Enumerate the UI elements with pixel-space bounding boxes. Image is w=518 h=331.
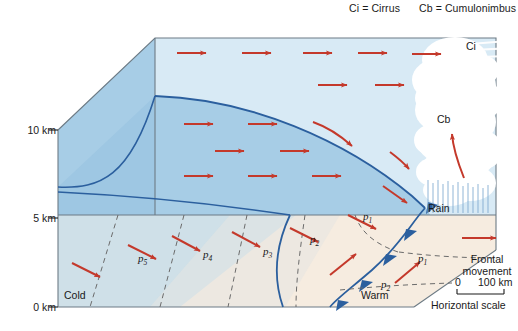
isobar-label-p1-upper: p1 — [363, 211, 372, 225]
rain-label: Rain — [428, 203, 450, 214]
cirrus-abbreviation: Ci = Cirrus — [349, 2, 400, 14]
isobar-subscript: 5 — [144, 258, 148, 267]
scale-start-label: 0 — [455, 277, 461, 288]
horizontal-scale-caption: Horizontal scale — [431, 300, 506, 311]
cirrus-label: Ci — [466, 41, 476, 52]
cold-air-label: Cold — [64, 290, 86, 301]
cloud-abbreviation-legend: Ci = Cirrus Cb = Cumulonimbus — [349, 3, 516, 14]
axis-tick-5km: 5 km — [8, 213, 56, 224]
isobar-subscript: 2 — [387, 284, 391, 293]
isobar-subscript: 1 — [369, 216, 373, 225]
isobar-subscript: 3 — [269, 251, 273, 260]
isobar-label-p2-upper: p2 — [310, 234, 319, 248]
isobar-label-p2-right: p2 — [381, 279, 390, 293]
frontal-movement-line2: movement — [462, 265, 511, 277]
cumulonimbus-abbreviation: Cb = Cumulonimbus — [419, 2, 516, 14]
isobar-subscript: 4 — [209, 254, 213, 263]
diagram-canvas — [0, 0, 518, 331]
scale-end-label: 100 km — [478, 277, 512, 288]
cumulonimbus-label: Cb — [437, 114, 450, 125]
axis-tick-10km: 10 km — [8, 125, 56, 136]
isobar-label-p3: p3 — [263, 246, 272, 260]
isobar-label-p5: p5 — [138, 253, 147, 267]
isobar-subscript: 2 — [316, 239, 320, 248]
frontal-movement-label: Frontal movement — [459, 254, 515, 277]
isobar-label-p4: p4 — [203, 249, 212, 263]
cumulonimbus-cloud — [412, 37, 512, 206]
frontal-movement-line1: Frontal — [471, 253, 504, 265]
scale-bar — [457, 289, 504, 294]
axis-tick-0km: 0 km — [8, 302, 56, 313]
frontal-cross-section-diagram: Ci = Cirrus Cb = Cumulonimbus 10 km 5 km… — [0, 0, 518, 331]
isobar-label-p1-right: p1 — [418, 253, 427, 267]
isobar-subscript: 1 — [424, 258, 428, 267]
